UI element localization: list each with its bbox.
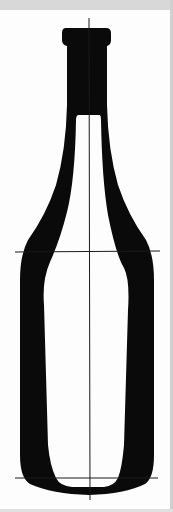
bottle-diagram [0,0,173,512]
diagram-frame [0,0,173,512]
bottle-interior [44,115,129,487]
